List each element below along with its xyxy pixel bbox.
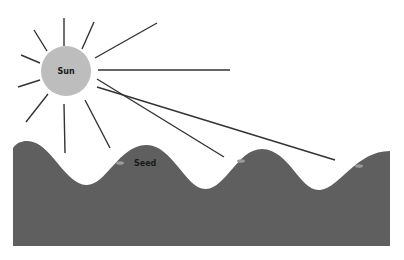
sun-ray xyxy=(85,100,110,148)
seed-icon xyxy=(237,159,245,163)
seed-label: Seed xyxy=(134,159,157,168)
sun-ray xyxy=(26,94,48,122)
sun-ray xyxy=(18,80,40,87)
sun-ray xyxy=(34,30,47,51)
seed-icon xyxy=(116,161,124,165)
sun-ray xyxy=(97,79,224,157)
seed-icon xyxy=(355,164,363,168)
sun-ray xyxy=(21,55,40,63)
sun-ray xyxy=(82,22,94,49)
sun-ray xyxy=(95,23,157,58)
sun-label: Sun xyxy=(57,67,74,76)
sun-ray xyxy=(64,104,65,153)
sun-seed-diagram: Seed Sun xyxy=(0,0,404,260)
ground-hills xyxy=(13,141,390,246)
